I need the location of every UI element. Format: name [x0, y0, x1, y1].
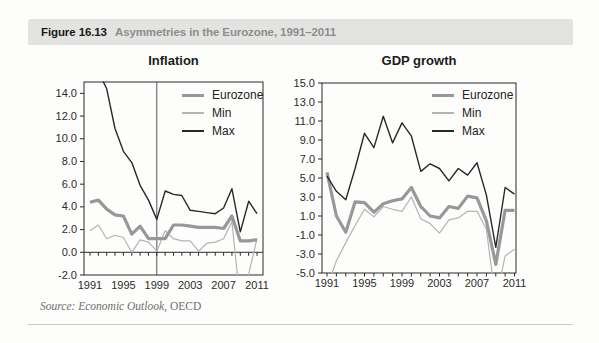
y-tick-label: 10.0: [56, 132, 77, 144]
x-tick-label: 2007: [211, 279, 235, 291]
x-tick-label: 1999: [390, 277, 414, 289]
legend-label-max: Max: [212, 124, 235, 138]
figure-header-bar: Figure 16.13 Asymmetries in the Eurozone…: [28, 19, 573, 45]
figure-subtitle: Asymmetries in the Eurozone, 1991–2011: [115, 26, 336, 38]
y-tick-label: 1.0: [300, 210, 315, 222]
y-tick-label: 12.0: [56, 110, 77, 122]
x-tick-label: 2003: [178, 279, 202, 291]
y-tick-label: 5.0: [300, 172, 315, 184]
y-tick-label: -3.0: [296, 248, 315, 260]
min-line-swatch: [182, 112, 204, 114]
legend-row-min: Min: [182, 104, 263, 122]
source-note-plain: OECD: [167, 300, 201, 312]
y-tick-label: 6.0: [62, 178, 77, 190]
x-tick-label: 2003: [427, 277, 451, 289]
x-tick-label: 2011: [245, 279, 269, 291]
legend-label-max: Max: [462, 124, 485, 138]
x-tick-label: 1999: [145, 279, 169, 291]
y-tick-label: 2.0: [62, 223, 77, 235]
source-note-italic: Source: Economic Outlook,: [40, 300, 167, 312]
inflation-legend: Eurozone Min Max: [182, 86, 263, 140]
x-tick-label: 1995: [352, 277, 376, 289]
y-tick-label: -2.0: [58, 269, 77, 281]
max-line-swatch: [432, 130, 454, 132]
legend-row-min: Min: [432, 104, 513, 122]
legend-label-eurozone: Eurozone: [212, 88, 263, 102]
y-tick-label: -1.0: [296, 229, 315, 241]
figure-number-label: Figure 16.13: [41, 26, 107, 38]
max-line-swatch: [182, 130, 204, 132]
y-tick-label: 0.0: [62, 246, 77, 258]
panel-bottom-rule: [28, 324, 573, 325]
legend-row-max: Max: [432, 122, 513, 140]
gdp-legend: Eurozone Min Max: [432, 86, 513, 140]
eurozone-line-swatch: [182, 94, 204, 97]
y-tick-label: 7.0: [300, 153, 315, 165]
source-note: Source: Economic Outlook, OECD: [40, 300, 201, 312]
legend-label-min: Min: [462, 106, 481, 120]
legend-row-eurozone: Eurozone: [432, 86, 513, 104]
y-tick-label: 15.0: [294, 77, 315, 89]
y-tick-label: 8.0: [62, 155, 77, 167]
y-tick-label: 14.0: [56, 87, 77, 99]
y-tick-label: 4.0: [62, 200, 77, 212]
x-tick-label: 1991: [315, 277, 339, 289]
legend-label-eurozone: Eurozone: [462, 88, 513, 102]
y-tick-label: 9.0: [300, 134, 315, 146]
legend-row-max: Max: [182, 122, 263, 140]
x-tick-label: 2007: [465, 277, 489, 289]
y-tick-label: 3.0: [300, 191, 315, 203]
y-tick-label: 11.0: [294, 115, 315, 127]
x-tick-label: 1991: [78, 279, 102, 291]
y-tick-label: 13.0: [294, 96, 315, 108]
legend-row-eurozone: Eurozone: [182, 86, 263, 104]
eurozone-line-swatch: [432, 94, 454, 97]
y-tick-label: -5.0: [296, 267, 315, 279]
figure-panel: Figure 16.13 Asymmetries in the Eurozone…: [0, 0, 599, 343]
x-tick-label: 1995: [111, 279, 135, 291]
x-tick-label: 2011: [503, 277, 527, 289]
min-line-swatch: [432, 112, 454, 114]
legend-label-min: Min: [212, 106, 231, 120]
